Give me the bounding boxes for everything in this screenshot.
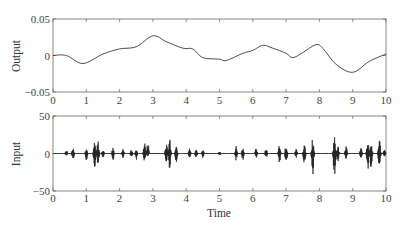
figure: 012345678910 0.050−0.05 Output 012345678… <box>0 0 405 228</box>
output-line <box>53 36 386 73</box>
x-tick-label: 2 <box>117 94 123 106</box>
x-tick-label: 10 <box>381 94 393 106</box>
x-axis-label: Time <box>207 207 231 219</box>
x-tick-label: 9 <box>350 94 356 106</box>
input-signal-line <box>53 137 386 174</box>
output-y-label: Output <box>10 39 23 72</box>
y-tick-label: 0 <box>45 148 51 160</box>
x-tick-label: 3 <box>150 192 156 204</box>
x-tick-label: 5 <box>217 192 223 204</box>
x-tick-label: 10 <box>381 192 393 204</box>
x-tick-label: 4 <box>183 94 189 106</box>
x-tick-label: 1 <box>84 94 90 106</box>
output-x-ticks: 012345678910 <box>50 19 392 106</box>
input-plot: 012345678910 500−50 Input Time <box>10 110 392 219</box>
x-tick-label: 4 <box>183 192 189 204</box>
x-tick-label: 5 <box>217 94 223 106</box>
y-tick-label: −0.05 <box>25 86 51 98</box>
x-tick-label: 6 <box>250 192 256 204</box>
y-tick-label: 0 <box>45 50 51 62</box>
x-tick-label: 0 <box>50 192 56 204</box>
x-tick-label: 7 <box>283 192 289 204</box>
output-y-ticks: 0.050−0.05 <box>25 13 386 98</box>
x-tick-label: 3 <box>150 94 156 106</box>
y-tick-label: −50 <box>33 185 51 197</box>
output-plot: 012345678910 0.050−0.05 Output <box>10 13 392 106</box>
x-tick-label: 6 <box>250 94 256 106</box>
x-tick-label: 0 <box>50 94 56 106</box>
x-tick-label: 7 <box>283 94 289 106</box>
x-tick-label: 8 <box>317 94 323 106</box>
output-plot-frame <box>53 19 386 92</box>
y-tick-label: 50 <box>39 110 51 122</box>
x-tick-label: 2 <box>117 192 123 204</box>
x-tick-label: 8 <box>317 192 323 204</box>
y-tick-label: 0.05 <box>31 13 51 25</box>
input-y-label: Input <box>10 141 23 166</box>
x-tick-label: 9 <box>350 192 356 204</box>
x-tick-label: 1 <box>84 192 90 204</box>
